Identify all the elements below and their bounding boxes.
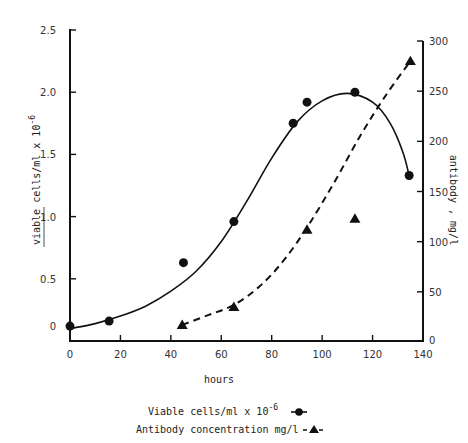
right-y-tick-label: 250 <box>429 86 448 97</box>
legend-triangle-marker-icon <box>309 425 319 433</box>
left-y-axis-label-exponent: -6 <box>28 115 37 125</box>
viable-cells-data-point <box>229 217 238 226</box>
x-tick-label: 100 <box>313 349 332 360</box>
x-tick-label: 60 <box>215 349 228 360</box>
x-axis-ticks: 020406080100120140 <box>67 335 433 360</box>
left-y-axis-label: viable cells/ml x 10-6 <box>28 115 44 247</box>
antibody-fit-curve <box>182 61 410 325</box>
left-y-tick-label: 1.5 <box>40 149 56 160</box>
legend-entry-viable-cells: Viable cells/ml x 10-6 <box>148 403 307 417</box>
left-y-tick-label: 1.0 <box>40 212 56 223</box>
axes <box>69 29 424 342</box>
left-y-axis-label-text: viable cells/ml x 10 <box>31 125 42 245</box>
right-y-axis-ticks: 050100150200250300 <box>417 36 448 346</box>
antibody-data-point <box>349 213 360 222</box>
legend: Viable cells/ml x 10-6 Antibody concentr… <box>136 403 325 435</box>
legend-label-viable-cells: Viable cells/ml x 10 <box>148 406 268 417</box>
antibody-data-point <box>302 224 313 233</box>
viable-cells-data-point <box>405 171 414 180</box>
left-y-tick-label: 0.5 <box>40 274 56 285</box>
legend-label-antibody: Antibody concentration mg/l <box>136 424 299 435</box>
svg-text:viable cells/ml x 10-6: viable cells/ml x 10-6 <box>28 115 42 245</box>
antibody-data-point <box>405 56 416 65</box>
right-y-tick-label: 150 <box>429 187 448 198</box>
left-y-tick-label: 2.5 <box>40 25 56 36</box>
legend-circle-marker-icon <box>295 408 303 416</box>
x-tick-label: 140 <box>413 349 432 360</box>
legend-label-viable-cells-exponent: -6 <box>268 403 278 412</box>
fit-curves <box>70 61 410 329</box>
viable-cells-data-point <box>179 258 188 267</box>
x-axis-label: hours <box>204 374 234 385</box>
right-y-tick-label: 100 <box>429 237 448 248</box>
x-tick-label: 0 <box>67 349 73 360</box>
viable-cells-data-point <box>303 98 312 107</box>
right-y-tick-label: 0 <box>429 335 435 346</box>
viable-cells-data-point <box>105 317 114 326</box>
legend-entry-antibody: Antibody concentration mg/l <box>136 424 325 435</box>
x-tick-label: 120 <box>363 349 382 360</box>
left-y-tick-label: 0 <box>50 321 56 332</box>
viable-cells-data-point <box>350 88 359 97</box>
right-y-tick-label: 50 <box>429 287 442 298</box>
viable-cells-data-point <box>289 119 298 128</box>
svg-text:Viable cells/ml x 10-6: Viable cells/ml x 10-6 <box>148 403 278 417</box>
right-y-axis-label-text: antibody , mg/l <box>448 155 459 245</box>
right-y-tick-label: 200 <box>429 136 448 147</box>
left-y-tick-label: 2.0 <box>40 87 56 98</box>
x-tick-label: 40 <box>164 349 177 360</box>
viable-cells-fit-curve <box>70 93 409 328</box>
chart: 020406080100120140 00.51.01.52.02.5 0501… <box>0 0 468 443</box>
viable-cells-data-point <box>66 322 75 331</box>
right-y-axis-label: antibody , mg/l <box>448 155 459 245</box>
x-tick-label: 20 <box>114 349 127 360</box>
x-tick-label: 80 <box>265 349 278 360</box>
right-y-tick-label: 300 <box>429 36 448 47</box>
